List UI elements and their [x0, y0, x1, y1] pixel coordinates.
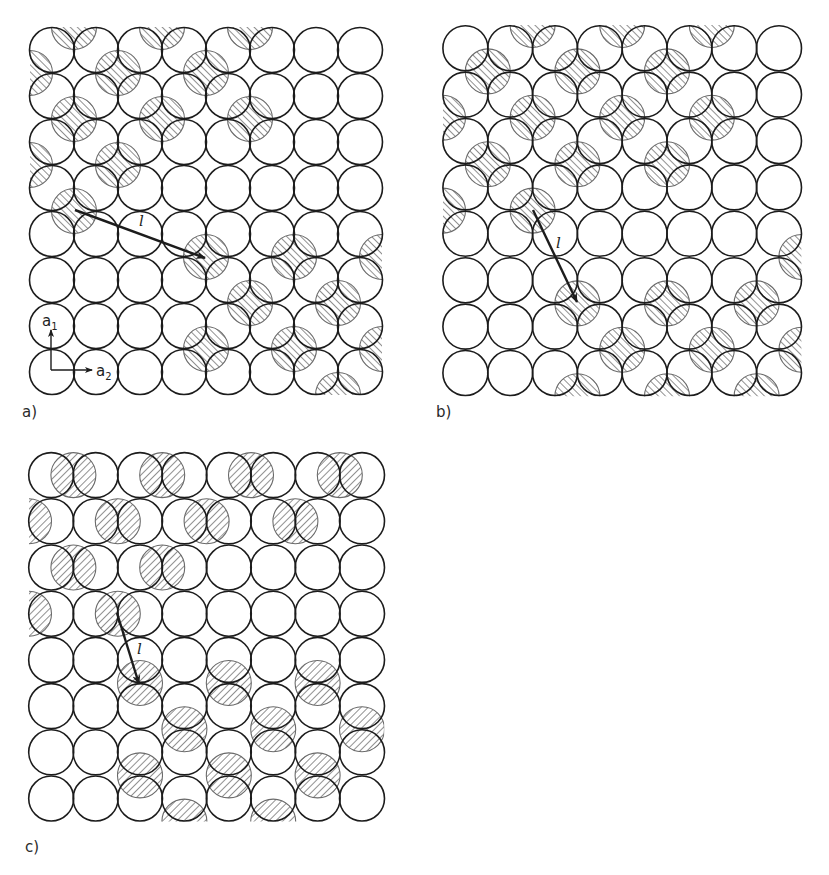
lattice-atom	[338, 166, 383, 211]
lattice-atom	[162, 258, 207, 303]
lattice-atom	[443, 72, 488, 117]
shaded-atom	[645, 281, 690, 326]
lattice-atom	[667, 165, 712, 210]
lattice-atom	[533, 304, 578, 349]
lattice-atom	[74, 120, 119, 165]
lattice-atom	[29, 776, 74, 821]
lattice-atom	[488, 72, 533, 117]
lattice-atom	[74, 74, 119, 119]
lattice-atom	[712, 211, 757, 256]
lattice-atom	[206, 258, 251, 303]
lattice-atom	[118, 258, 163, 303]
lattice-atom	[162, 637, 207, 682]
lattice-atom	[30, 212, 75, 257]
lattice-atom	[757, 72, 802, 117]
translation-vector-arrow	[533, 210, 577, 302]
lattice-atom	[206, 212, 251, 257]
panel-label-b: b)	[436, 405, 451, 420]
shaded-atom	[510, 95, 555, 140]
panel-b	[421, 3, 824, 419]
lattice-atom	[757, 351, 802, 396]
lattice-atom	[488, 211, 533, 256]
lattice-atom	[162, 350, 207, 395]
lattice-atom	[667, 26, 712, 71]
lattice-atom	[206, 28, 251, 73]
shaded-atom	[510, 3, 555, 48]
lattice-atom	[667, 72, 712, 117]
lattice-atom	[533, 72, 578, 117]
lattice-atom	[30, 74, 75, 119]
lattice-atom	[667, 258, 712, 303]
lattice-atom	[757, 119, 802, 164]
shaded-atom	[555, 281, 600, 326]
lattice-atom	[488, 351, 533, 396]
lattice-atom	[712, 119, 757, 164]
lattice-atom	[712, 72, 757, 117]
lattice-atom	[338, 258, 383, 303]
lattice-atom	[294, 74, 339, 119]
lattice-atom	[340, 637, 385, 682]
shaded-atom	[734, 281, 779, 326]
lattice-atom	[250, 258, 295, 303]
lattice-atom	[73, 730, 118, 775]
shaded-atom	[734, 374, 779, 419]
lattice-atom	[712, 351, 757, 396]
lattice-atom	[162, 166, 207, 211]
lattice-atom	[162, 120, 207, 165]
shaded-atom	[600, 327, 645, 372]
lattice-atom	[667, 351, 712, 396]
lattice-atom	[488, 258, 533, 303]
lattice-atom	[443, 119, 488, 164]
shaded-atom	[421, 95, 466, 140]
translation-vector-label-c: l	[137, 642, 142, 657]
shaded-atom	[779, 327, 824, 372]
shaded-atom	[645, 142, 690, 187]
lattice-atom	[118, 28, 163, 73]
lattice-atom	[206, 545, 251, 590]
panel-label-a: a)	[22, 405, 37, 420]
lattice-atom	[206, 304, 251, 349]
lattice-atom	[162, 74, 207, 119]
lattice-atom	[118, 304, 163, 349]
lattice-atom	[622, 258, 667, 303]
panel-c	[7, 453, 385, 844]
lattice-atom	[74, 166, 119, 211]
lattice-atom	[577, 72, 622, 117]
lattice-atom	[533, 26, 578, 71]
lattice-atom	[294, 120, 339, 165]
lattice-atom	[250, 166, 295, 211]
lattice-atom	[294, 258, 339, 303]
lattice-atom	[250, 350, 295, 395]
shaded-atom	[600, 95, 645, 140]
basis-vector-a2-label: a2	[96, 364, 112, 382]
lattice-atom	[622, 165, 667, 210]
lattice-atom	[338, 350, 383, 395]
lattice-atom	[757, 26, 802, 71]
shaded-atom	[555, 374, 600, 419]
lattice-atom	[294, 350, 339, 395]
lattice-atom	[74, 304, 119, 349]
lattice-atom	[118, 350, 163, 395]
shaded-atom	[689, 3, 734, 48]
lattice-atom	[757, 165, 802, 210]
lattice-atom	[250, 120, 295, 165]
lattice-atom	[488, 119, 533, 164]
lattice-atom	[295, 545, 340, 590]
lattice-atom	[488, 26, 533, 71]
lattice-atom	[251, 591, 296, 636]
lattice-atom	[757, 258, 802, 303]
lattice-atom	[577, 258, 622, 303]
lattice-atom	[251, 637, 296, 682]
lattice-atom	[250, 304, 295, 349]
lattice-atom	[162, 304, 207, 349]
lattice-atom	[250, 212, 295, 257]
basis-a1-symbol: a	[42, 312, 51, 330]
lattice-atom	[622, 72, 667, 117]
lattice-atom	[338, 120, 383, 165]
lattice-atom	[667, 119, 712, 164]
lattice-atom	[622, 351, 667, 396]
lattice-atom	[443, 351, 488, 396]
lattice-atom	[295, 591, 340, 636]
lattice-atom	[533, 165, 578, 210]
lattice-atom	[294, 28, 339, 73]
